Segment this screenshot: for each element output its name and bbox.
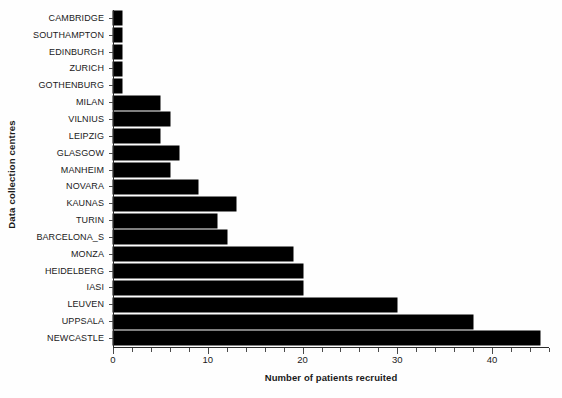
bar-row bbox=[113, 162, 549, 179]
x-axis-minor-tick bbox=[340, 348, 341, 352]
plot-area bbox=[113, 10, 549, 347]
x-axis-tick-label: 0 bbox=[110, 355, 115, 365]
bar-chart: Data collection centres CAMBRIDGESOUTHAM… bbox=[0, 0, 562, 398]
bar-row bbox=[113, 263, 549, 280]
y-axis-tick-label: NOVARA bbox=[16, 178, 108, 195]
bar-row bbox=[113, 10, 549, 27]
bar-row bbox=[113, 246, 549, 263]
bar bbox=[113, 331, 540, 345]
bar bbox=[113, 96, 160, 110]
x-axis-minor-tick bbox=[454, 348, 455, 352]
y-axis-line bbox=[113, 10, 114, 347]
bar bbox=[113, 298, 397, 312]
bar-row bbox=[113, 111, 549, 128]
bar-row bbox=[113, 280, 549, 297]
bar bbox=[113, 180, 198, 194]
bar bbox=[113, 79, 122, 93]
bar-series bbox=[113, 10, 549, 347]
y-axis-tick-label: GLASGOW bbox=[16, 145, 108, 162]
x-axis-minor-tick bbox=[322, 348, 323, 352]
x-axis-minor-tick bbox=[284, 348, 285, 352]
x-axis-tick-label: 20 bbox=[297, 355, 308, 365]
x-axis-minor-tick bbox=[511, 348, 512, 352]
y-axis-tick-label: MANHEIM bbox=[16, 162, 108, 179]
x-axis-minor-tick bbox=[359, 348, 360, 352]
y-axis-tick-label: HEIDELBERG bbox=[16, 263, 108, 280]
bar bbox=[113, 11, 122, 25]
x-axis-minor-tick bbox=[132, 348, 133, 352]
bar-row bbox=[113, 195, 549, 212]
bar-row bbox=[113, 178, 549, 195]
x-axis-minor-tick bbox=[246, 348, 247, 352]
bar-row bbox=[113, 313, 549, 330]
bar bbox=[113, 62, 122, 76]
y-axis-tick-label: VILNIUS bbox=[16, 111, 108, 128]
y-axis-tick-label: EDINBURGH bbox=[16, 44, 108, 61]
y-axis-tick-label: IASI bbox=[16, 280, 108, 297]
bar bbox=[113, 247, 293, 261]
bar bbox=[113, 281, 303, 295]
y-axis-tick-label: ZURICH bbox=[16, 61, 108, 78]
bar-row bbox=[113, 128, 549, 145]
x-axis-minor-tick bbox=[530, 348, 531, 352]
x-axis-tick-label: 10 bbox=[202, 355, 213, 365]
bar bbox=[113, 264, 303, 278]
y-axis-tick-label: TURIN bbox=[16, 212, 108, 229]
bar-row bbox=[113, 212, 549, 229]
bar bbox=[113, 28, 122, 42]
bar bbox=[113, 45, 122, 59]
bar bbox=[113, 315, 473, 329]
bar bbox=[113, 129, 160, 143]
x-axis-tick-labels: 010203040 bbox=[113, 355, 549, 369]
bar-row bbox=[113, 296, 549, 313]
bar bbox=[113, 214, 217, 228]
x-axis-minor-tick bbox=[378, 348, 379, 352]
x-axis-minor-tick bbox=[416, 348, 417, 352]
bar bbox=[113, 146, 179, 160]
x-axis-title: Number of patients recruited bbox=[113, 372, 549, 383]
x-axis-tick-label: 30 bbox=[392, 355, 403, 365]
bar-row bbox=[113, 61, 549, 78]
y-axis-tick-label: GOTHENBURG bbox=[16, 77, 108, 94]
x-axis-minor-tick bbox=[189, 348, 190, 352]
bar-row bbox=[113, 77, 549, 94]
x-axis-minor-tick bbox=[265, 348, 266, 352]
x-axis-tick-label: 40 bbox=[487, 355, 498, 365]
y-axis-tick-label: BARCELONA_S bbox=[16, 229, 108, 246]
bar-row bbox=[113, 94, 549, 111]
x-axis-ticks bbox=[113, 348, 549, 354]
y-axis-tick-label: NEWCASTLE bbox=[16, 330, 108, 347]
y-axis-tick-label: MONZA bbox=[16, 246, 108, 263]
bar bbox=[113, 230, 227, 244]
bar bbox=[113, 112, 170, 126]
x-axis-minor-tick bbox=[435, 348, 436, 352]
bar-row bbox=[113, 229, 549, 246]
y-axis-tick-label: LEIPZIG bbox=[16, 128, 108, 145]
bar-row bbox=[113, 145, 549, 162]
y-axis-tick-label: SOUTHAMPTON bbox=[16, 27, 108, 44]
x-axis-minor-tick bbox=[549, 348, 550, 352]
bar bbox=[113, 163, 170, 177]
y-axis-tick-labels: CAMBRIDGESOUTHAMPTONEDINBURGHZURICHGOTHE… bbox=[16, 10, 108, 347]
bar bbox=[113, 197, 236, 211]
x-axis-minor-tick bbox=[227, 348, 228, 352]
y-axis-tick-label: UPPSALA bbox=[16, 313, 108, 330]
y-axis-tick-label: LEUVEN bbox=[16, 296, 108, 313]
x-axis-minor-tick bbox=[151, 348, 152, 352]
y-axis-title-text: Data collection centres bbox=[6, 120, 17, 229]
bar-row bbox=[113, 44, 549, 61]
bar-row bbox=[113, 330, 549, 347]
x-axis-minor-tick bbox=[473, 348, 474, 352]
y-axis-tick-label: KAUNAS bbox=[16, 195, 108, 212]
y-axis-tick-label: CAMBRIDGE bbox=[16, 10, 108, 27]
x-axis-minor-tick bbox=[170, 348, 171, 352]
y-axis-tick-label: MILAN bbox=[16, 94, 108, 111]
bar-row bbox=[113, 27, 549, 44]
